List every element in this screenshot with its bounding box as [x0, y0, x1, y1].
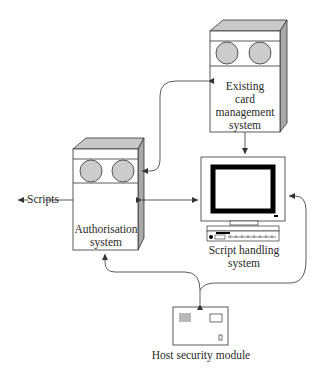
diagram-canvas	[0, 0, 322, 368]
label-line: Authorisation	[70, 223, 142, 236]
disk-icon	[216, 42, 238, 64]
authorisation-label: Authorisation system	[70, 223, 142, 249]
edge-card-mgmt-authorisation	[142, 81, 208, 171]
script-handling-terminal	[201, 157, 285, 241]
card-management-label: Existing card management system	[212, 80, 278, 132]
script-handling-label: Script handling system	[198, 244, 290, 270]
label-line: system	[198, 257, 290, 270]
label-line: Existing	[212, 80, 278, 93]
host-security-module-box	[173, 307, 228, 345]
disk-icon	[112, 160, 134, 182]
label-line: management	[212, 106, 278, 119]
label-line: system	[70, 236, 142, 249]
disk-icon	[249, 42, 271, 64]
hsm-label: Host security module	[143, 349, 259, 362]
disk-icon	[80, 160, 102, 182]
label-line: Script handling	[198, 244, 290, 257]
label-line: system	[212, 119, 278, 132]
label-line: card	[212, 93, 278, 106]
scripts-label: Scripts	[27, 193, 67, 206]
edge-hsm-authorisation	[105, 254, 200, 304]
